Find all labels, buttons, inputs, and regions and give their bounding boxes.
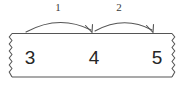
number-line-diagram: 1 2 3 4 5 (0, 0, 183, 85)
diagram-canvas (0, 0, 183, 85)
hop-label-1: 1 (50, 2, 66, 13)
strip-number-3: 3 (19, 48, 41, 67)
hop-arrow-2-head (147, 25, 154, 33)
strip-left-torn-edge (9, 34, 12, 78)
strip-number-4: 4 (83, 48, 105, 67)
hop-arrow-2-curve (95, 23, 152, 31)
hop-arrow-2 (95, 23, 154, 33)
hop-label-2: 2 (111, 2, 127, 13)
strip-right-torn-edge (172, 34, 175, 78)
hop-arrow-1-curve (26, 22, 91, 32)
hop-arrow-1 (26, 22, 93, 32)
strip-number-5: 5 (146, 48, 168, 67)
